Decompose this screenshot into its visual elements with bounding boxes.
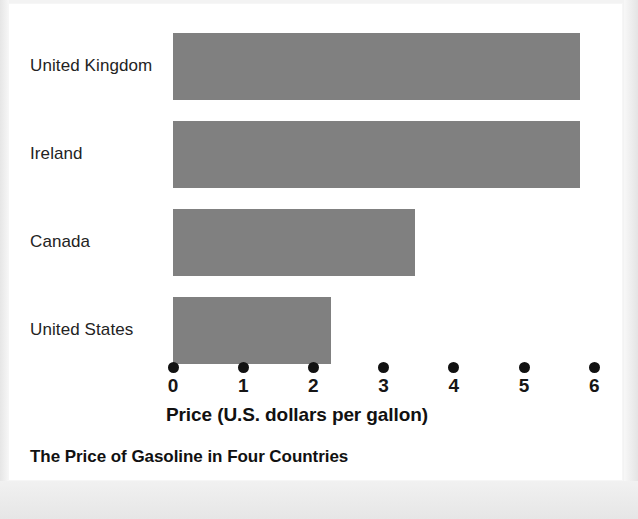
chart-title: The Price of Gasoline in Four Countries [30,447,348,467]
x-tick-dot-4 [448,362,459,373]
x-axis: 0123456 [0,362,638,402]
x-tick-label-2: 2 [293,375,333,397]
x-tick-label-1: 1 [223,375,263,397]
bar-row: United States [0,297,638,364]
x-tick-dot-3 [378,362,389,373]
bar-ireland [173,121,580,188]
bar-row: United Kingdom [0,33,638,100]
bar-label-united-states: United States [30,320,133,340]
x-tick-dot-5 [519,362,530,373]
x-tick-dot-2 [308,362,319,373]
bar-united-kingdom [173,33,580,100]
x-axis-title: Price (U.S. dollars per gallon) [166,404,428,426]
bar-label-ireland: Ireland [30,144,83,164]
x-tick-label-0: 0 [153,375,193,397]
bar-united-states [173,297,331,364]
x-tick-label-6: 6 [574,375,614,397]
bar-row: Canada [0,209,638,276]
x-tick-dot-6 [589,362,600,373]
bar-label-canada: Canada [30,232,90,252]
x-tick-label-5: 5 [504,375,544,397]
x-tick-label-4: 4 [434,375,474,397]
bar-canada [173,209,415,276]
x-tick-dot-1 [238,362,249,373]
x-tick-label-3: 3 [364,375,404,397]
bar-row: Ireland [0,121,638,188]
bar-chart: United KingdomIrelandCanadaUnited States… [0,0,638,519]
bar-label-united-kingdom: United Kingdom [30,56,152,76]
x-tick-dot-0 [168,362,179,373]
